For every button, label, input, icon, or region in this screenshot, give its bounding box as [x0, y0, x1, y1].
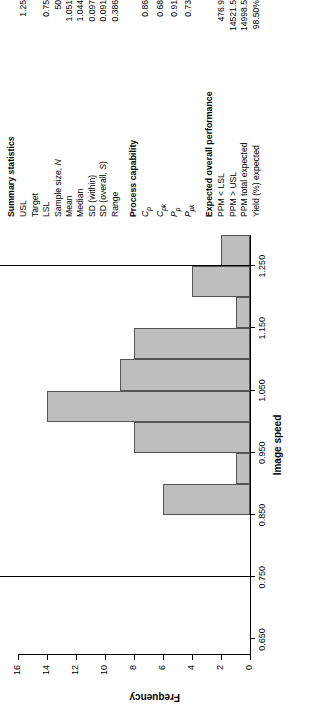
x-tick-mark [250, 514, 255, 515]
x-axis-title: Image speed [272, 235, 283, 655]
capability-figure: LSLUSL 0.6500.7500.8500.9501.0501.1501.2… [0, 0, 319, 717]
stat-row: Pp0.91 [169, 0, 183, 217]
stat-label: Target [30, 183, 41, 217]
y-tick-label: 6 [157, 665, 167, 691]
histogram-bar [134, 422, 250, 453]
y-tick-mark [250, 655, 251, 660]
stat-label: Median [75, 179, 86, 217]
statistics-panel: Summary statistics USL1.25TargetLSL0.75S… [6, 0, 319, 217]
histogram-bar [236, 297, 251, 328]
spec-limit-line [0, 265, 250, 266]
stat-value: 14521.5 [228, 0, 239, 31]
process-capability-section: Process capability Cp0.86Cpk0.68Pp0.91Pp… [128, 0, 197, 217]
y-tick-label: 16 [12, 665, 22, 691]
y-tick-mark [76, 655, 77, 660]
x-tick-mark [250, 638, 255, 639]
stat-label: Cpk [155, 194, 169, 217]
capability-histogram-page: LSLUSL 0.6500.7500.8500.9501.0501.1501.2… [0, 0, 319, 717]
x-tick-label: 1.250 [257, 243, 267, 289]
stat-value: 1.044 [75, 0, 86, 22]
stat-row: LSL0.75 [41, 0, 52, 217]
histogram-bar [163, 484, 250, 515]
histogram-bar [47, 391, 250, 422]
expected-performance-section: Expected overall performance PPM < LSL47… [204, 0, 262, 217]
process-capability-rows: Cp0.86Cpk0.68Pp0.91Ppk0.73 [140, 0, 197, 217]
process-capability-title: Process capability [128, 0, 139, 217]
stat-value: 98.50% [251, 0, 262, 29]
y-tick-mark [163, 655, 164, 660]
histogram-chart: LSLUSL 0.6500.7500.8500.9501.0501.1501.2… [0, 217, 319, 717]
y-tick-label: 2 [215, 665, 225, 691]
x-tick-mark [250, 390, 255, 391]
y-tick-label: 12 [70, 665, 80, 691]
stat-label: USL [18, 190, 29, 217]
summary-statistics-title: Summary statistics [6, 0, 17, 217]
y-tick-label: 8 [128, 665, 138, 691]
stat-row: Sample size, N50 [53, 0, 64, 217]
summary-statistics-section: Summary statistics USL1.25TargetLSL0.75S… [6, 0, 121, 217]
x-tick-mark [250, 576, 255, 577]
x-tick-mark [250, 327, 255, 328]
stat-row: USL1.25 [18, 0, 29, 217]
stat-value: 1.25 [18, 0, 29, 17]
stat-value: 0.86 [140, 0, 154, 17]
stat-row: Median1.044 [75, 0, 86, 217]
y-tick-mark [47, 655, 48, 660]
y-tick-mark [134, 655, 135, 660]
stat-label: Cp [140, 197, 154, 217]
stat-value: 14998.5 [239, 0, 250, 31]
stat-label: Ppk [183, 194, 197, 217]
stat-value: 476.9 [216, 0, 227, 22]
stat-label: SD (overall, S) [98, 151, 109, 217]
histogram-bar [236, 453, 251, 484]
stat-value: 0.73 [183, 0, 197, 17]
histogram-bar [192, 266, 250, 297]
stat-value: 50 [53, 0, 64, 10]
histogram-bar [120, 359, 251, 390]
stat-value: 0.386 [110, 0, 121, 22]
x-tick-label: 1.050 [257, 368, 267, 414]
y-tick-label: 14 [41, 665, 51, 691]
y-tick-label: 10 [99, 665, 109, 691]
stat-value: 0.097 [87, 0, 98, 22]
stat-value: 0.091 [98, 0, 109, 22]
stat-label: PPM total expected [239, 132, 250, 217]
stat-label: Range [110, 182, 121, 217]
y-tick-label: 0 [244, 665, 254, 691]
spec-limit-line [0, 576, 250, 577]
stat-label: PPM > USL [228, 162, 239, 217]
stat-value: 1.051 [64, 0, 75, 22]
stat-row: Yield (%) expected98.50% [251, 0, 262, 217]
y-tick-mark [18, 655, 19, 660]
rotated-figure-wrapper: LSLUSL 0.6500.7500.8500.9501.0501.1501.2… [0, 0, 319, 717]
stat-row: PPM > USL14521.5 [228, 0, 239, 217]
stat-row: Cpk0.68 [155, 0, 169, 217]
y-tick-mark [192, 655, 193, 660]
summary-statistics-rows: USL1.25TargetLSL0.75Sample size, N50Mean… [18, 0, 121, 217]
expected-performance-title: Expected overall performance [204, 0, 215, 217]
x-tick-mark [250, 265, 255, 266]
x-tick-label: 0.650 [257, 616, 267, 662]
x-tick-label: 0.950 [257, 430, 267, 476]
plot-area: LSLUSL [18, 235, 250, 655]
y-axis-title: Frequency [129, 692, 180, 703]
stat-label: PPM < LSL [216, 163, 227, 217]
stat-label: LSL [41, 192, 52, 217]
y-tick-label: 4 [186, 665, 196, 691]
stat-row: Target [30, 0, 41, 217]
x-tick-mark [250, 452, 255, 453]
stat-row: SD (within)0.097 [87, 0, 98, 217]
stat-value: 0.68 [155, 0, 169, 17]
stat-row: Ppk0.73 [183, 0, 197, 217]
histogram-bar [221, 235, 250, 266]
stat-value: 0.91 [169, 0, 183, 17]
stat-row: Range0.386 [110, 0, 121, 217]
stat-row: PPM < LSL476.9 [216, 0, 227, 217]
x-tick-label: 0.850 [257, 492, 267, 538]
stat-row: SD (overall, S)0.091 [98, 0, 109, 217]
x-axis-line [250, 235, 251, 655]
stat-value: 0.75 [41, 0, 52, 17]
stat-label: SD (within) [87, 165, 98, 217]
y-tick-mark [105, 655, 106, 660]
stat-label: Pp [169, 198, 183, 217]
